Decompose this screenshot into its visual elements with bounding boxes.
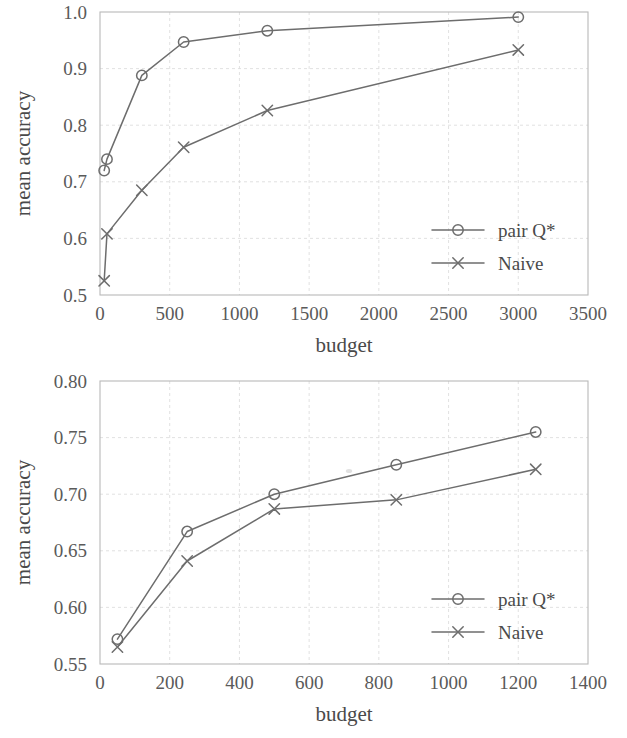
data-point-marker bbox=[513, 45, 523, 55]
y-axis-title: mean accuracy bbox=[11, 459, 35, 585]
scan-artifact-speck bbox=[346, 469, 352, 473]
x-axis-tick-label: 1500 bbox=[290, 303, 328, 324]
y-axis-tick-label: 0.8 bbox=[63, 115, 87, 136]
legend-label-2: Naive bbox=[498, 253, 543, 274]
x-axis-tick-label: 1200 bbox=[499, 672, 537, 693]
x-axis-tick-label: 1000 bbox=[430, 672, 468, 693]
series-line bbox=[104, 50, 518, 281]
x-axis-title: budget bbox=[315, 702, 372, 726]
y-axis-tick-label: 1.0 bbox=[63, 2, 87, 23]
y-axis-tick-label: 0.7 bbox=[63, 171, 87, 192]
chart-svg-bottom: 02004006008001000120014000.550.600.650.7… bbox=[0, 369, 627, 738]
x-axis-tick-label: 500 bbox=[155, 303, 184, 324]
data-point-marker bbox=[112, 642, 122, 652]
chart-legend: pair Q*Naive bbox=[432, 589, 556, 643]
y-axis-tick-label: 0.60 bbox=[54, 597, 87, 618]
x-axis-tick-label: 3000 bbox=[499, 303, 537, 324]
y-axis-tick-label: 0.55 bbox=[54, 654, 87, 675]
series-1 bbox=[112, 427, 541, 645]
x-axis-tick-label: 800 bbox=[365, 672, 394, 693]
x-axis-tick-label: 2000 bbox=[360, 303, 398, 324]
x-axis-tick-label: 600 bbox=[295, 672, 324, 693]
x-axis-title: budget bbox=[315, 333, 372, 357]
y-axis-tick-label: 0.75 bbox=[54, 427, 87, 448]
data-point-marker bbox=[137, 185, 147, 195]
legend-label-1: pair Q* bbox=[498, 220, 556, 241]
series-2 bbox=[112, 464, 541, 652]
x-axis-tick-label: 0 bbox=[95, 303, 105, 324]
chart-svg-top: 05001000150020002500300035000.50.60.70.8… bbox=[0, 0, 627, 369]
x-axis-tick-label: 1400 bbox=[569, 672, 607, 693]
y-axis-tick-label: 0.80 bbox=[54, 371, 87, 392]
chart-legend: pair Q*Naive bbox=[432, 220, 556, 274]
x-axis-tick-label: 1000 bbox=[220, 303, 258, 324]
x-axis-tick-label: 0 bbox=[95, 672, 105, 693]
series-line bbox=[104, 17, 518, 170]
y-axis-tick-label: 0.5 bbox=[63, 285, 87, 306]
y-axis-tick-label: 0.65 bbox=[54, 540, 87, 561]
y-axis-tick-label: 0.6 bbox=[63, 228, 87, 249]
data-point-marker bbox=[182, 556, 192, 566]
chart-panel-top: 05001000150020002500300035000.50.60.70.8… bbox=[0, 0, 627, 369]
figure-page: 05001000150020002500300035000.50.60.70.8… bbox=[0, 0, 627, 738]
data-point-marker bbox=[262, 105, 272, 115]
series-line bbox=[117, 469, 535, 647]
x-axis-tick-label: 3500 bbox=[569, 303, 607, 324]
series-2 bbox=[99, 45, 524, 286]
series-1 bbox=[99, 12, 524, 176]
y-axis-tick-label: 0.70 bbox=[54, 484, 87, 505]
x-axis-tick-label: 200 bbox=[155, 672, 184, 693]
axis-tick-labels: 02004006008001000120014000.550.600.650.7… bbox=[54, 371, 607, 694]
data-point-marker bbox=[178, 142, 188, 152]
x-axis-tick-label: 400 bbox=[225, 672, 254, 693]
legend-label-2: Naive bbox=[498, 622, 543, 643]
y-axis-tick-label: 0.9 bbox=[63, 58, 87, 79]
legend-label-1: pair Q* bbox=[498, 589, 556, 610]
data-point-marker bbox=[531, 464, 541, 474]
axis-tick-labels: 05001000150020002500300035000.50.60.70.8… bbox=[63, 2, 607, 325]
series-line bbox=[117, 432, 535, 639]
y-axis-title: mean accuracy bbox=[11, 90, 35, 216]
x-axis-tick-label: 2500 bbox=[430, 303, 468, 324]
chart-panel-bottom: 02004006008001000120014000.550.600.650.7… bbox=[0, 369, 627, 738]
